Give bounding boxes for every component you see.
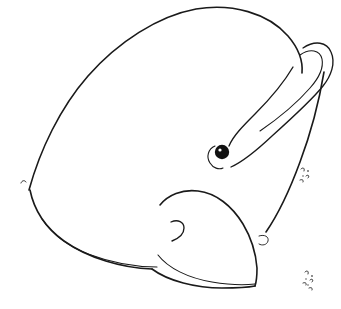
background [0,0,341,309]
eye [215,145,229,159]
whale-head-line-drawing [0,0,341,309]
eye-highlight [218,148,221,151]
drawing-canvas: Line drawing of a whale head [0,0,341,309]
